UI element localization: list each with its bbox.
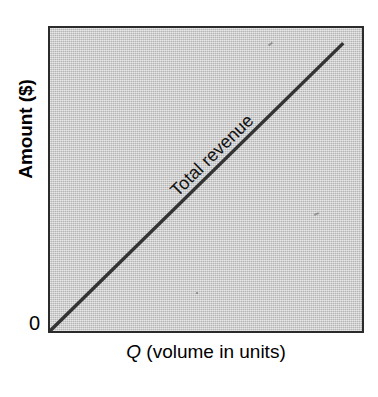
x-axis-label-text: (volume in units) xyxy=(141,341,286,362)
x-axis-label: Q (volume in units) xyxy=(48,341,364,363)
plot-area: Total revenue xyxy=(48,26,364,333)
y-axis-label: Amount ($) xyxy=(15,49,37,209)
plot-svg xyxy=(50,28,362,331)
total-revenue-line xyxy=(50,43,343,331)
x-axis-label-symbol: Q xyxy=(126,341,141,362)
origin-label: 0 xyxy=(29,313,40,333)
revenue-chart-figure: Total revenue Amount ($) 0 Q (volume in … xyxy=(0,0,378,397)
